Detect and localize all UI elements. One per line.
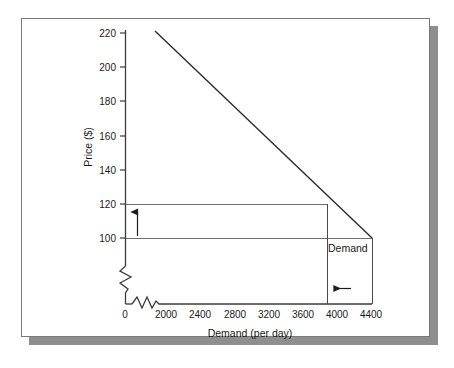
- y-axis-break-icon: [120, 266, 131, 304]
- x-tick-label-2800: 2800: [224, 309, 247, 320]
- x-tick-label-4000: 4000: [326, 309, 349, 320]
- y-tick-label-220: 220: [99, 28, 116, 39]
- x-tick-label-2000: 2000: [155, 309, 178, 320]
- x-axis-group: 0 2000 2400 2800 3200 3600 4000 4400 Dem…: [122, 297, 382, 339]
- y-tick-label-180: 180: [99, 96, 116, 107]
- y-tick-label-140: 140: [99, 165, 116, 176]
- y-tick-label-160: 160: [99, 131, 116, 142]
- x-tick-label-2400: 2400: [189, 309, 212, 320]
- y-axis-title: Price ($): [82, 127, 94, 167]
- y-tick-label-200: 200: [99, 62, 116, 73]
- price-guides-group: [126, 205, 372, 239]
- x-tick-label-4400: 4400: [360, 309, 383, 320]
- demand-curve-label: Demand: [328, 242, 368, 254]
- x-tick-label-3600: 3600: [292, 309, 315, 320]
- annotations-group: [138, 212, 352, 289]
- demand-curve-chart: 220 200 180 160 140 120 100 Price ($) 0 …: [0, 0, 454, 368]
- x-tick-label-3200: 3200: [258, 309, 281, 320]
- demand-series-group: Demand: [155, 31, 372, 254]
- y-tick-label-100: 100: [99, 233, 116, 244]
- x-axis-break-icon: [132, 297, 372, 308]
- figure-root: 220 200 180 160 140 120 100 Price ($) 0 …: [0, 0, 454, 368]
- y-tick-label-120: 120: [99, 199, 116, 210]
- y-axis-group: 220 200 180 160 140 120 100 Price ($): [82, 28, 131, 304]
- demand-curve-line: [155, 31, 372, 238]
- x-tick-label-0: 0: [122, 309, 128, 320]
- x-axis-title: Demand (per day): [208, 327, 293, 339]
